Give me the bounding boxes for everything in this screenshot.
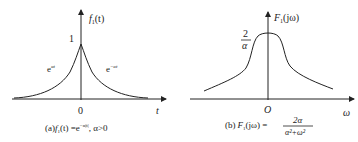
right-caption: (b)F1(jω) = bbox=[225, 120, 267, 131]
caption-fraction: 2α α²+ω² bbox=[283, 115, 313, 137]
left-curve-label: eαt bbox=[47, 64, 56, 74]
left-caption: (a)f1(t) =e−α|t|, α>0 bbox=[45, 123, 108, 134]
right-exp-curve bbox=[81, 44, 148, 98]
right-x-label: ω bbox=[343, 107, 350, 118]
right-y-label: F1(jω) bbox=[273, 12, 299, 24]
caption-numerator: 2α bbox=[293, 115, 303, 125]
left-origin-label: 0 bbox=[78, 105, 83, 116]
left-y-label: f1(t) bbox=[89, 13, 104, 25]
peak-numerator: 2 bbox=[243, 28, 248, 39]
peak-denominator: α bbox=[242, 40, 248, 51]
right-origin-label: O bbox=[264, 104, 271, 115]
peak-value-fraction: 2 α bbox=[241, 28, 251, 51]
fourier-pair-diagram: f1(t) 1 eαt e−αt 0 t (a)f1(t) =e−α|t|, α… bbox=[0, 0, 358, 142]
left-x-label: t bbox=[156, 105, 159, 116]
caption-denominator: α²+ω² bbox=[285, 128, 306, 137]
right-panel-spectrum: F1(jω) 2 α O ω (b)F1(jω) = 2α α²+ω² bbox=[190, 12, 354, 137]
left-panel-time-signal: f1(t) 1 eαt e−αt 0 t (a)f1(t) =e−α|t|, α… bbox=[12, 10, 166, 134]
peak-label: 1 bbox=[69, 33, 74, 44]
right-curve-label: e−αt bbox=[106, 64, 118, 74]
